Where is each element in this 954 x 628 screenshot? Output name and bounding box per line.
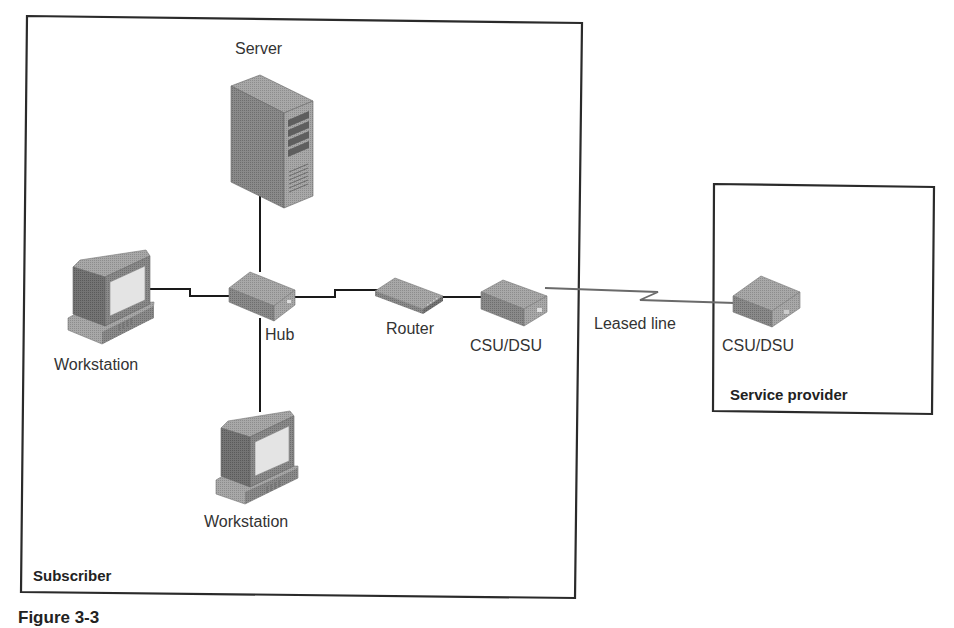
workstation-bottom-icon — [216, 411, 298, 504]
workstation-left-label: Workstation — [54, 356, 138, 374]
hub-icon — [229, 272, 295, 321]
server-icon — [231, 75, 313, 208]
service-provider-zone-label: Service provider — [730, 386, 848, 403]
workstation-left-icon — [68, 250, 154, 344]
hub-label: Hub — [265, 326, 294, 344]
csu-dsu-provider-icon — [733, 276, 800, 327]
router-label: Router — [386, 320, 434, 338]
leased-line-connection — [545, 288, 735, 303]
leased-line-label: Leased line — [594, 315, 676, 333]
figure-caption: Figure 3-3 — [18, 608, 99, 628]
router-icon — [375, 278, 443, 314]
server-label: Server — [235, 40, 282, 58]
csu-dsu-subscriber-icon — [481, 280, 547, 326]
subscriber-zone-label: Subscriber — [33, 567, 111, 584]
workstation-bottom-label: Workstation — [204, 513, 288, 531]
csu-dsu-provider-label: CSU/DSU — [722, 337, 794, 355]
csu-dsu-subscriber-label: CSU/DSU — [470, 337, 542, 355]
